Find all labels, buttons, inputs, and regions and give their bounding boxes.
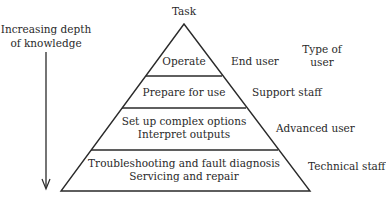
layer-4-task-line1: Troubleshooting and fault diagnosis	[80, 157, 288, 170]
layer-3-user: Advanced user	[276, 122, 355, 135]
layer-2-task: Prepare for use	[124, 86, 244, 99]
axis-label-line2: of knowledge	[0, 37, 92, 50]
layer-1-task: Operate	[144, 55, 224, 68]
layer-3-task-line1: Set up complex options	[100, 115, 268, 128]
column-header-line1: Type of	[292, 43, 352, 56]
layer-4-user: Technical staff	[308, 160, 385, 173]
layer-4-task-line2: Servicing and repair	[80, 170, 288, 183]
layer-1-user: End user	[231, 55, 279, 68]
apex-label: Task	[164, 5, 204, 18]
layer-2-user: Support staff	[252, 86, 322, 99]
layer-3-task-line2: Interpret outputs	[100, 128, 268, 141]
column-header-line2: user	[292, 56, 352, 69]
axis-label-line1: Increasing depth	[0, 23, 92, 36]
